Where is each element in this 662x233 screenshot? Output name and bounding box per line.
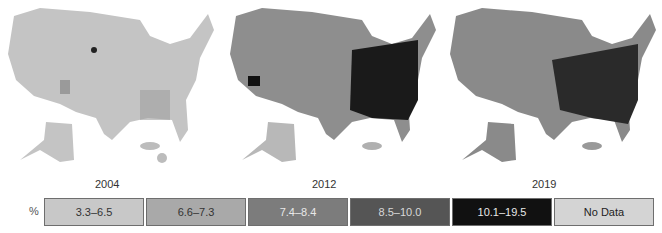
map-2012 (222, 0, 442, 170)
year-label-2012: 2012 (312, 178, 336, 190)
legend-item-2: 6.6–7.3 (146, 198, 246, 226)
legend-item-label: 10.1–19.5 (478, 206, 527, 218)
legend-unit-label: % (29, 205, 39, 217)
legend-item-label: 7.4–8.4 (280, 206, 317, 218)
legend-item-label: 3.3–6.5 (76, 206, 113, 218)
legend-item-1: 3.3–6.5 (44, 198, 144, 226)
year-label-2004: 2004 (95, 178, 119, 190)
legend-item-4: 8.5–10.0 (350, 198, 450, 226)
legend-item-label: 6.6–7.3 (178, 206, 215, 218)
legend-item-label: No Data (584, 206, 624, 218)
legend-item-3: 7.4–8.4 (248, 198, 348, 226)
legend-item-no-data: No Data (554, 198, 654, 226)
legend-item-label: 8.5–10.0 (379, 206, 422, 218)
map-2004 (0, 0, 220, 170)
legend-item-5: 10.1–19.5 (452, 198, 552, 226)
year-label-2019: 2019 (532, 178, 556, 190)
us-map-2019-shape (442, 0, 662, 170)
us-map-2004-shape (0, 0, 220, 170)
us-map-2012-shape (222, 0, 442, 170)
map-2019 (442, 0, 662, 170)
